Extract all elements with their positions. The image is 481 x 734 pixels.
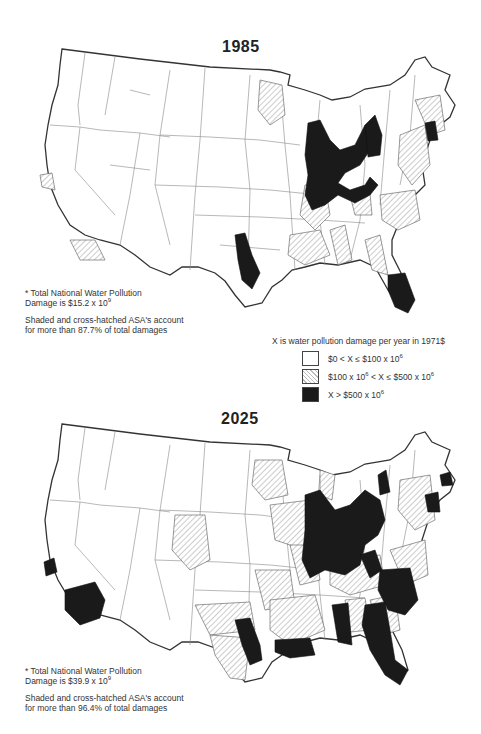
footnote-share-line1: Shaded and cross-hatched ASA's account: [25, 315, 184, 325]
footnote-total-value: Damage is $15.2 x 109: [25, 298, 184, 308]
footnote-total-value: Damage is $39.9 x 109: [25, 676, 184, 686]
legend-item-medium: $100 x 106 < X ≤ $500 x 106: [302, 369, 445, 384]
swatch-hatched-icon: [302, 369, 319, 384]
legend-label-low: $0 < X ≤ $100 x 106: [328, 354, 403, 364]
swatch-white-icon: [302, 351, 319, 366]
footnote-share-line1: Shaded and cross-hatched ASA's account: [25, 693, 184, 703]
us-map-1985: [20, 45, 460, 315]
legend-item-low: $0 < X ≤ $100 x 106: [302, 351, 445, 366]
legend-label-high: X > $500 x 106: [328, 390, 384, 400]
legend: X is water pollution damage per year in …: [272, 336, 445, 405]
us-map-2025: [20, 420, 460, 690]
footnote-share-line2: for more than 87.7% of total damages: [25, 325, 184, 335]
footnote-share-line2: for more than 96.4% of total damages: [25, 703, 184, 713]
legend-item-high: X > $500 x 106: [302, 387, 445, 402]
footnote-2025: * Total National Water Pollution Damage …: [25, 666, 184, 713]
footnote-total-label: * Total National Water Pollution: [25, 288, 184, 298]
footnote-1985: * Total National Water Pollution Damage …: [25, 288, 184, 335]
legend-label-medium: $100 x 106 < X ≤ $500 x 106: [328, 372, 434, 382]
swatch-black-icon: [302, 387, 319, 402]
legend-title: X is water pollution damage per year in …: [272, 336, 445, 346]
footnote-total-label: * Total National Water Pollution: [25, 666, 184, 676]
